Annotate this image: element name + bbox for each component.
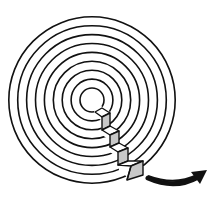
concentric-rings — [9, 17, 175, 183]
rings-staircase-diagram — [0, 0, 224, 201]
ring-8 — [18, 26, 167, 175]
ring-6 — [36, 44, 149, 157]
ring-4 — [53, 61, 130, 138]
ring-5 — [44, 52, 139, 147]
curved-arrow-right-icon — [148, 170, 207, 184]
diagram-canvas — [0, 0, 224, 201]
ring-7 — [27, 35, 158, 166]
ring-9 — [9, 17, 175, 183]
